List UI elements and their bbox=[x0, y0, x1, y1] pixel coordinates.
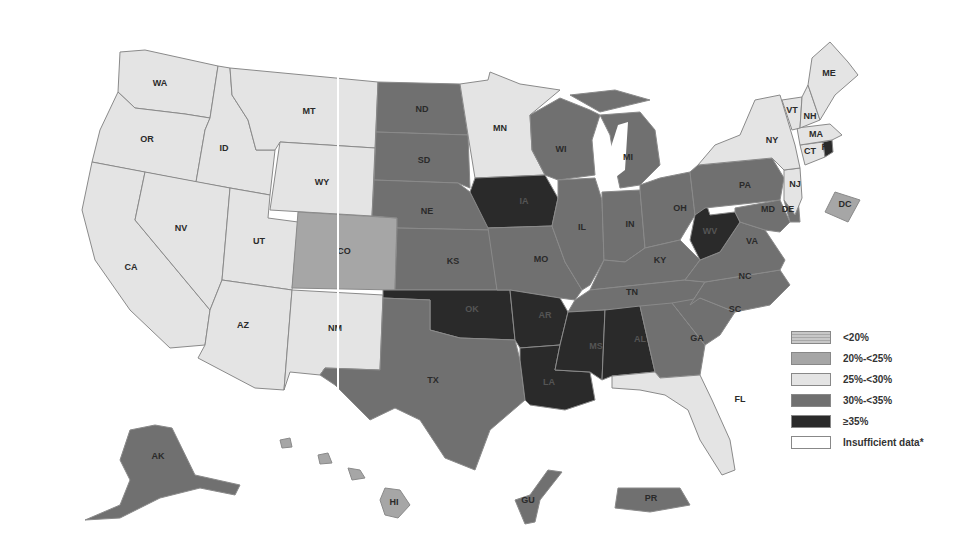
label-ID: ID bbox=[220, 143, 230, 153]
label-CT: CT bbox=[804, 146, 816, 156]
label-TX: TX bbox=[427, 375, 439, 385]
label-NY: NY bbox=[766, 135, 779, 145]
legend-item-20-25: 20%-<25% bbox=[791, 348, 924, 369]
label-MT: MT bbox=[303, 106, 316, 116]
label-GA: GA bbox=[690, 333, 704, 343]
label-DC: DC bbox=[839, 199, 852, 209]
label-LA: LA bbox=[543, 377, 555, 387]
legend-label: ≥35% bbox=[843, 416, 869, 427]
label-NH: NH bbox=[804, 111, 817, 121]
label-PA: PA bbox=[739, 180, 751, 190]
label-OR: OR bbox=[140, 134, 154, 144]
label-ND: ND bbox=[416, 104, 429, 114]
label-GU: GU bbox=[521, 495, 535, 505]
state-ME bbox=[808, 42, 858, 120]
legend-swatch-insufficient bbox=[791, 436, 831, 449]
label-NM: NM bbox=[328, 323, 342, 333]
label-IA: IA bbox=[520, 196, 530, 206]
label-AK: AK bbox=[152, 451, 165, 461]
label-UT: UT bbox=[253, 236, 265, 246]
legend-item-insufficient: Insufficient data* bbox=[791, 432, 924, 453]
label-AZ: AZ bbox=[237, 320, 249, 330]
legend-label: Insufficient data* bbox=[843, 437, 924, 448]
legend-label: 30%-<35% bbox=[843, 395, 892, 406]
legend-item-25-30: 25%-<30% bbox=[791, 369, 924, 390]
label-MS: MS bbox=[589, 341, 603, 351]
state-FL bbox=[612, 372, 735, 475]
label-NE: NE bbox=[421, 206, 434, 216]
state-OH bbox=[640, 172, 695, 248]
us-choropleth-map: WA OR CA ID NV UT AZ MT WY CO NM ND SD N… bbox=[0, 0, 956, 552]
label-KY: KY bbox=[654, 255, 667, 265]
label-MD: MD bbox=[761, 204, 775, 214]
render-artifact-line bbox=[337, 0, 339, 400]
legend-swatch-20-25 bbox=[791, 352, 831, 365]
label-NV: NV bbox=[175, 223, 188, 233]
label-OH: OH bbox=[673, 203, 687, 213]
label-DE: DE bbox=[782, 204, 795, 214]
label-PR: PR bbox=[645, 493, 658, 503]
legend: <20% 20%-<25% 25%-<30% 30%-<35% ≥35% Ins… bbox=[791, 327, 924, 453]
legend-swatch-30-35 bbox=[791, 394, 831, 407]
legend-swatch-25-30 bbox=[791, 373, 831, 386]
label-FL: FL bbox=[735, 394, 746, 404]
label-MN: MN bbox=[493, 123, 507, 133]
label-AR: AR bbox=[539, 310, 552, 320]
label-WV: WV bbox=[703, 226, 718, 236]
label-MI: MI bbox=[623, 152, 633, 162]
legend-label: <20% bbox=[843, 332, 869, 343]
legend-item-ge35: ≥35% bbox=[791, 411, 924, 432]
legend-label: 20%-<25% bbox=[843, 353, 892, 364]
label-OK: OK bbox=[465, 304, 479, 314]
state-IN bbox=[602, 190, 645, 262]
label-TN: TN bbox=[626, 287, 638, 297]
legend-item-lt20: <20% bbox=[791, 327, 924, 348]
legend-swatch-lt20 bbox=[791, 331, 831, 344]
label-HI: HI bbox=[390, 497, 399, 507]
label-IL: IL bbox=[578, 222, 587, 232]
label-MO: MO bbox=[534, 254, 549, 264]
label-VT: VT bbox=[786, 105, 798, 115]
label-NC: NC bbox=[739, 271, 752, 281]
label-MA: MA bbox=[809, 129, 823, 139]
label-VA: VA bbox=[746, 236, 758, 246]
label-IN: IN bbox=[626, 219, 635, 229]
label-SD: SD bbox=[418, 155, 431, 165]
label-WI: WI bbox=[556, 144, 567, 154]
label-CA: CA bbox=[125, 262, 138, 272]
label-RI: RI bbox=[822, 142, 831, 152]
label-CO: CO bbox=[337, 246, 351, 256]
state-AK bbox=[85, 425, 240, 520]
legend-item-30-35: 30%-<35% bbox=[791, 390, 924, 411]
label-SC: SC bbox=[729, 304, 742, 314]
legend-label: 25%-<30% bbox=[843, 374, 892, 385]
label-WA: WA bbox=[153, 78, 168, 88]
label-NJ: NJ bbox=[789, 179, 801, 189]
label-AL: AL bbox=[634, 334, 646, 344]
label-ME: ME bbox=[822, 68, 836, 78]
legend-swatch-ge35 bbox=[791, 415, 831, 428]
label-KS: KS bbox=[447, 256, 460, 266]
label-WY: WY bbox=[315, 177, 330, 187]
